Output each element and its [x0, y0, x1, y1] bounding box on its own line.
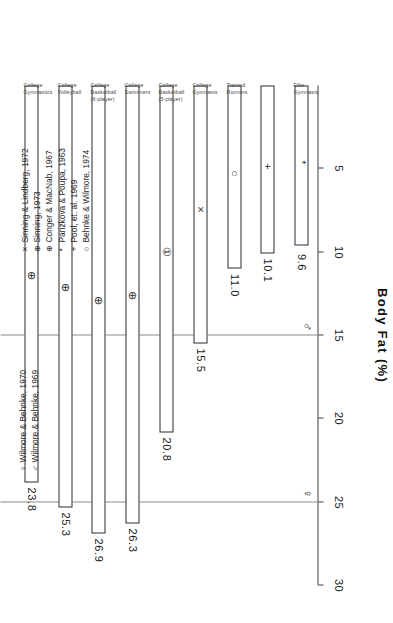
- bar[interactable]: [91, 85, 105, 533]
- legend-bottom: ×Sinning & Lindberg, 1972⊕Sinning, 1973⊕…: [18, 147, 91, 251]
- category-label-line: Runners: [226, 88, 247, 95]
- x-tick-label: 20: [332, 412, 344, 425]
- category-label: CollegeBasketball(5-player): [158, 81, 184, 101]
- x-tick: [318, 334, 323, 335]
- bar-row: ⊕26.3CollegeSwimmers: [115, 85, 149, 585]
- bar[interactable]: [159, 85, 173, 432]
- x-axis-title: Body Fat (%): [374, 85, 389, 585]
- legend-symbol-icon: ⊕: [30, 242, 42, 251]
- bar-marker-icon: ⊕: [127, 291, 138, 300]
- legend-label: Pool, et. al. 1969: [68, 179, 78, 242]
- category-label-line: College: [158, 81, 184, 88]
- category-label: EliteGymnasts: [293, 81, 318, 95]
- bar-value-label: 20.8: [160, 436, 172, 462]
- category-label: CollegeGymnastics: [23, 81, 52, 95]
- legend-symbol-icon: ⊕: [42, 242, 54, 251]
- category-label-line: Volleyball: [57, 88, 81, 95]
- legend-top: ♀Wilmore & Behnke, 1970♂Wilmore & Behnke…: [16, 369, 40, 471]
- legend-label: Sinning & Lindberg, 1972: [19, 148, 29, 242]
- legend-label: Wilmore & Behnke, 1970: [17, 369, 27, 462]
- legend-item: ♀Wilmore & Behnke, 1970: [16, 369, 28, 471]
- bar[interactable]: [294, 85, 308, 245]
- x-tick-label: 5: [332, 165, 344, 172]
- category-label-line: College: [90, 81, 116, 88]
- legend-symbol-icon: ♂: [28, 462, 40, 471]
- bar-marker-icon: ⊕: [25, 271, 36, 280]
- x-tick: [318, 251, 323, 252]
- category-label: TrainedRunners: [226, 81, 247, 95]
- legend-symbol-icon: ♀: [16, 462, 28, 471]
- legend-symbol-icon: +: [67, 242, 79, 251]
- bar-value-label: 26.9: [92, 537, 104, 563]
- bar-marker-icon: ×: [194, 206, 205, 212]
- legend-item: ♂Wilmore & Behnke, 1969: [28, 369, 40, 471]
- x-tick: [318, 584, 323, 585]
- legend-symbol-icon: ○: [79, 242, 91, 251]
- bar-value-label: 25.3: [59, 511, 71, 537]
- bar-value-label: 11.0: [228, 272, 240, 298]
- legend-label: Conger & MacNab, 1967: [43, 150, 53, 242]
- bar-row: *9.6EliteGymnasts: [284, 85, 318, 585]
- x-tick: [318, 501, 323, 502]
- category-label-line: Basketball: [158, 88, 184, 95]
- category-label: CollegeSwimmers: [124, 81, 150, 95]
- chart-figure: 30252015105 ♀♂ *9.6EliteGymnasts+10.1○11…: [0, 0, 393, 623]
- bar-value-label: 23.8: [25, 486, 37, 512]
- category-label-line: College: [23, 81, 52, 88]
- x-tick-label: 10: [332, 245, 344, 258]
- bar-value-label: 9.6: [295, 249, 307, 275]
- legend-item: *Parizkova & Poupa, 1963: [55, 147, 67, 251]
- legend-label: Sinning, 1973: [31, 191, 41, 242]
- bar-marker-icon: ⊕: [59, 283, 70, 292]
- category-label-line: Swimmers: [124, 88, 150, 95]
- legend-symbol-icon: *: [55, 242, 67, 251]
- legend-item: ×Sinning & Lindberg, 1972: [18, 147, 30, 251]
- category-label-line: Basketball: [90, 88, 116, 95]
- category-label-line: Gymnasts: [192, 88, 217, 95]
- category-label-line: Gymnastics: [23, 88, 52, 95]
- x-tick-label: 30: [332, 578, 344, 591]
- legend-item: ○Behnke & Wilmore, 1974: [79, 147, 91, 251]
- category-label: CollegeGymnasts: [192, 81, 217, 95]
- x-tick-label: 25: [332, 495, 344, 508]
- bar-marker-icon: ⊕: [93, 296, 104, 305]
- category-label: CollegeBasketball(6-player): [90, 81, 116, 101]
- category-label-line: Gymnasts: [293, 88, 318, 95]
- category-label-line: College: [57, 81, 81, 88]
- category-label: CollegeVolleyball: [57, 81, 81, 95]
- bar-marker-icon: ①: [160, 246, 171, 256]
- category-label-line: (5-player): [158, 95, 184, 102]
- bar-value-label: 15.5: [194, 347, 206, 373]
- chart-figure-rotated: 30252015105 ♀♂ *9.6EliteGymnasts+10.1○11…: [0, 0, 393, 623]
- bar-row: ×15.5CollegeGymnasts: [183, 85, 217, 585]
- legend-label: Behnke & Wilmore, 1974: [80, 149, 90, 242]
- legend-item: ⊕Conger & MacNab, 1967: [42, 147, 54, 251]
- bar-row: +10.1: [250, 85, 284, 585]
- bar-row: ①20.8CollegeBasketball(5-player): [149, 85, 183, 585]
- x-tick: [318, 417, 323, 418]
- bar-row: ○11.0TrainedRunners: [217, 85, 251, 585]
- bar[interactable]: [125, 85, 139, 523]
- bar-marker-icon: +: [262, 163, 273, 169]
- category-label-line: College: [192, 81, 217, 88]
- category-label-line: Elite: [293, 81, 318, 88]
- bar-value-label: 26.3: [126, 527, 138, 553]
- legend-item: ⊕Sinning, 1973: [30, 147, 42, 251]
- bar-marker-icon: ○: [228, 170, 239, 177]
- bar-marker-icon: *: [296, 160, 307, 164]
- bar-value-label: 10.1: [261, 257, 273, 283]
- legend-label: Parizkova & Poupa, 1963: [56, 147, 66, 242]
- x-tick: [318, 167, 323, 168]
- legend-item: +Pool, et. al. 1969: [67, 147, 79, 251]
- x-tick-label: 15: [332, 328, 344, 341]
- category-label-line: College: [124, 81, 150, 88]
- legend-symbol-icon: ×: [18, 242, 30, 251]
- category-label-line: Trained: [226, 81, 247, 88]
- category-label-line: (6-player): [90, 95, 116, 102]
- legend-label: Wilmore & Behnke, 1969: [29, 369, 39, 462]
- bar[interactable]: [193, 85, 207, 343]
